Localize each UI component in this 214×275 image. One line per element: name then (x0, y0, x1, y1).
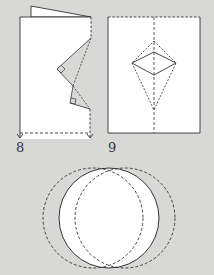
diagram-canvas (0, 0, 214, 275)
step-number-9: 9 (108, 141, 116, 154)
overlapping-circles-figure (43, 168, 175, 268)
step-number-8: 8 (16, 141, 24, 154)
back-flap (31, 6, 91, 17)
step-9-figure (108, 17, 200, 133)
front-panel (20, 17, 91, 139)
folding-diagram: 8 9 (0, 0, 214, 275)
step-8-figure (17, 6, 93, 139)
lens-shape (59, 168, 159, 268)
